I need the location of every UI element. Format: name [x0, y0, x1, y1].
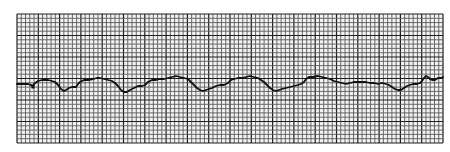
ecg-strip	[0, 0, 450, 152]
ecg-grid-paper	[17, 14, 443, 143]
ecg-calibration-marker	[32, 85, 35, 89]
